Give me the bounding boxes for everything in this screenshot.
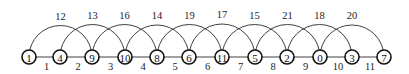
node-label: 5 — [252, 52, 258, 64]
node-label: 1 — [26, 52, 32, 64]
path-edge-label: 7 — [238, 61, 243, 72]
graph-node: 8 — [150, 50, 164, 64]
graph-node: 6 — [182, 50, 196, 64]
path-edge-label: 8 — [270, 61, 275, 72]
graph-node: 9 — [85, 50, 99, 64]
graph-node: 5 — [248, 50, 262, 64]
graph-node: 10 — [118, 50, 132, 64]
arc-edges — [29, 24, 384, 57]
arc-edge-label: 15 — [249, 10, 260, 21]
graph-diagram: 12131614191715211820 1234567891011 14910… — [0, 0, 409, 74]
node-label: 7 — [381, 52, 387, 64]
node-label: 0 — [317, 52, 323, 64]
path-edge-label: 11 — [365, 61, 375, 72]
node-label: 10 — [120, 52, 132, 64]
arc-edge-label: 21 — [282, 10, 293, 21]
node-label: 3 — [349, 52, 355, 64]
node-label: 6 — [186, 52, 192, 64]
arc-edge-label: 14 — [152, 10, 163, 21]
path-edge-label: 10 — [333, 61, 344, 72]
arc-edge-label: 17 — [217, 9, 228, 20]
node-label: 11 — [217, 52, 228, 64]
node-label: 9 — [89, 52, 95, 64]
path-edge-label: 6 — [205, 61, 210, 72]
graph-node: 3 — [345, 50, 359, 64]
path-edge-label: 4 — [140, 61, 146, 72]
graph-node: 1 — [22, 50, 36, 64]
arc-edge-label: 12 — [55, 11, 66, 22]
path-edge-label: 9 — [303, 61, 308, 72]
arc-edge-label: 13 — [87, 10, 98, 21]
arc-edge-label: 16 — [119, 10, 130, 21]
graph-node: 11 — [215, 50, 229, 64]
graph-node: 0 — [313, 50, 327, 64]
node-label: 2 — [284, 52, 290, 64]
path-edge-label: 3 — [108, 61, 113, 72]
path-edge-label: 5 — [172, 61, 177, 72]
arc-edge-label: 19 — [184, 10, 195, 21]
path-edge-label: 2 — [75, 61, 80, 72]
node-label: 4 — [57, 52, 63, 64]
graph-node: 7 — [377, 50, 391, 64]
path-edge-label: 1 — [44, 61, 49, 72]
graph-node: 4 — [53, 50, 67, 64]
arc-edge-labels: 12131614191715211820 — [55, 9, 357, 22]
graph-node: 2 — [280, 50, 294, 64]
arc-edge-label: 20 — [347, 10, 358, 21]
node-label: 8 — [154, 52, 160, 64]
arc-edge-label: 18 — [314, 10, 325, 21]
